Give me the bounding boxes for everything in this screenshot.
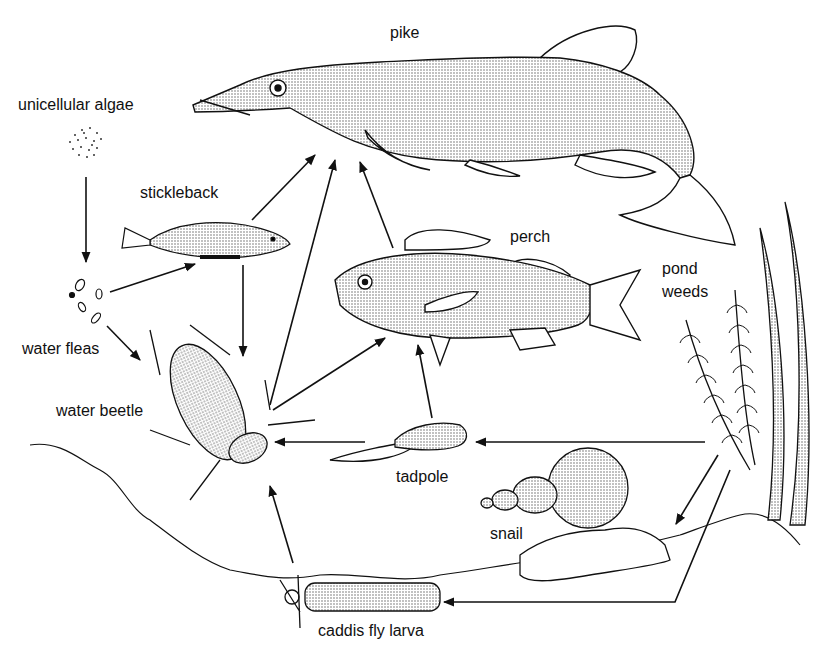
algae-icon: [69, 127, 102, 158]
label-snail: snail: [490, 525, 523, 543]
caddis-fly-larva-icon: [280, 575, 440, 628]
label-caddis-fly-larva: caddis fly larva: [318, 622, 424, 640]
label-water-beetle: water beetle: [56, 402, 143, 420]
arrow-fleas-to-stickleback: [110, 264, 195, 292]
label-pond-weeds-line2: weeds: [662, 283, 708, 301]
perch-icon: [335, 230, 640, 365]
label-water-fleas: water fleas: [22, 340, 99, 358]
label-tadpole: tadpole: [396, 468, 449, 486]
label-unicellular-algae: unicellular algae: [18, 96, 134, 114]
arrow-beetle-to-perch: [273, 338, 385, 410]
label-stickleback: stickleback: [140, 184, 218, 202]
arrow-fleas-to-beetle: [107, 326, 140, 360]
label-pike: pike: [390, 24, 419, 42]
snail-icon: [481, 448, 670, 581]
pond-weeds-icon: [680, 202, 809, 525]
water-fleas-icon: [70, 278, 103, 325]
pike-icon: [193, 26, 735, 245]
arrow-beetle-to-pike: [270, 160, 335, 405]
stickleback-icon: [122, 223, 290, 258]
label-pond-weeds-line1: pond: [662, 260, 698, 278]
arrow-stickleback-to-pike: [252, 155, 315, 220]
arrow-caddis-to-beetle: [270, 486, 293, 563]
water-beetle-icon: [150, 325, 315, 500]
arrow-tadpole-to-perch: [418, 345, 432, 418]
arrow-perch-to-pike: [360, 162, 393, 248]
label-perch: perch: [510, 228, 550, 246]
food-web-diagram: unicellular algae water fleas sticklebac…: [0, 0, 830, 651]
